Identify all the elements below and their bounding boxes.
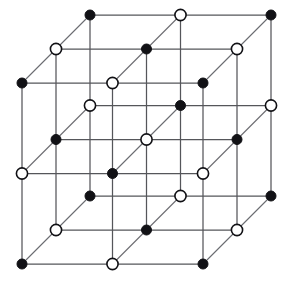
bond-line-depth	[203, 49, 237, 83]
bond-line-depth	[147, 106, 181, 140]
lattice-site-filled	[266, 10, 276, 20]
bond-line-depth	[237, 196, 271, 230]
bond-line-depth	[237, 106, 271, 140]
lattice-site-open	[197, 168, 208, 179]
bond-line-depth	[22, 140, 56, 174]
bond-line-depth	[113, 49, 147, 83]
lattice-site-open	[50, 224, 61, 235]
bond-line-depth	[56, 196, 90, 230]
bond-line-depth	[203, 140, 237, 174]
bond-line-depth	[22, 230, 56, 264]
lattice-site-filled	[198, 259, 208, 269]
lattice-site-open	[50, 43, 61, 54]
bond-line-depth	[56, 15, 90, 49]
lattice-site-filled	[108, 169, 118, 179]
lattice-site-filled	[17, 78, 27, 88]
bond-line-depth	[56, 106, 90, 140]
lattice-site-open	[231, 224, 242, 235]
lattice-site-open	[16, 168, 27, 179]
lattice-diagram	[0, 0, 290, 286]
lattice-site-filled	[142, 225, 152, 235]
lattice-site-open	[175, 9, 186, 20]
bond-line-depth	[113, 230, 147, 264]
lattice-site-filled	[176, 101, 186, 111]
lattice-site-filled	[85, 10, 95, 20]
lattice-site-open	[265, 100, 276, 111]
crystal-lattice-figure	[0, 0, 290, 286]
lattice-site-open	[141, 134, 152, 145]
bond-line-depth	[237, 15, 271, 49]
lattice-site-filled	[142, 44, 152, 54]
bond-line-depth	[22, 49, 56, 83]
lattice-site-open	[107, 77, 118, 88]
bond-line-depth	[113, 140, 147, 174]
bond-line-depth	[147, 196, 181, 230]
lattice-site-filled	[232, 135, 242, 145]
lattice-site-open	[175, 190, 186, 201]
lattice-site-filled	[51, 135, 61, 145]
lattice-site-filled	[17, 259, 27, 269]
lattice-site-open	[107, 258, 118, 269]
lattice-sites-group	[16, 9, 276, 269]
lattice-site-filled	[198, 78, 208, 88]
lattice-site-filled	[266, 191, 276, 201]
lattice-site-open	[231, 43, 242, 54]
bond-line-depth	[203, 230, 237, 264]
lattice-site-filled	[85, 191, 95, 201]
lattice-site-open	[84, 100, 95, 111]
bond-line-depth	[147, 15, 181, 49]
